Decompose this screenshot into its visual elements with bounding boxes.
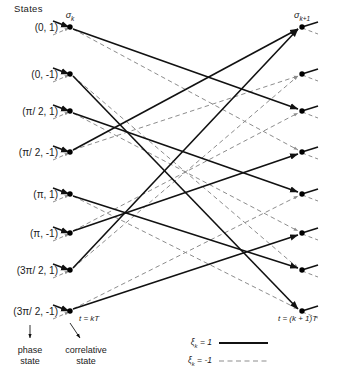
transition-edge-0-to-2 [73,29,298,109]
node-entry-stubs [53,21,318,319]
state-label-7: (3π/ 2, -1) [0,306,58,317]
transition-edge-3-to-1 [73,76,298,150]
annotation-phase-state-line2: state [18,356,43,367]
state-node-left-6 [67,267,72,272]
node-out-stub-dashed-1 [302,75,318,81]
state-label-1: (0, -1) [0,69,58,80]
state-node-left-5 [67,230,72,235]
node-out-stub-dashed-5 [302,234,318,240]
state-node-right-3 [299,149,304,154]
state-node-right-6 [299,267,304,272]
transition-edges-dashed [73,29,298,309]
time-label-right: t = (k + 1)T [278,314,317,323]
state-node-left-1 [67,71,72,76]
annotation-correlative-state: correlativestate [65,345,107,366]
node-out-stub-dashed-2 [302,112,318,118]
node-out-stub-dashed-3 [302,153,318,159]
annotation-phase-state: phasestate [18,345,43,366]
state-node-left-0 [67,24,72,29]
state-node-right-5 [299,230,304,235]
state-node-left-2 [67,108,72,113]
state-node-right-7 [299,308,304,313]
state-label-3: (π/ 2, -1) [0,147,58,158]
legend-sample-lines [219,343,268,361]
state-label-2: (π/ 2, 1) [0,106,58,117]
state-node-right-0 [299,24,304,29]
time-label-left: t = kT [79,314,99,323]
annotation-arrows [30,323,80,338]
legend-label-1: ξk = -1 [142,355,212,367]
transition-edge-7-to-5 [73,235,298,309]
annotation-phase-state-line1: phase [18,345,43,356]
state-label-0: (0, 1) [0,22,58,33]
annotation-correlative-state-line1: correlative [65,345,107,356]
column-header-sigma-k-plus-1: σk+1 [294,10,310,22]
state-label-6: (3π/ 2, 1) [0,265,58,276]
state-nodes [67,24,304,313]
state-node-left-4 [67,191,72,196]
annotation-arrow-correlative-state [70,323,80,338]
state-label-4: (π, 1) [0,189,58,200]
transition-edges-solid [73,29,298,309]
state-node-right-1 [299,71,304,76]
node-out-stub-dashed-0 [302,28,318,34]
legend-label-0: ξk = 1 [142,337,212,349]
state-node-right-2 [299,108,304,113]
state-label-5: (π, -1) [0,228,58,239]
node-out-stub-dashed-4 [302,195,318,201]
transition-edge-5-to-3 [73,154,298,231]
state-node-left-3 [67,149,72,154]
trellis-figure: States (0, 1)(0, -1)(π/ 2, 1)(π/ 2, -1)(… [0,0,341,376]
state-node-right-4 [299,191,304,196]
annotation-correlative-state-line2: state [65,356,107,367]
column-header-sigma-k: σk [66,10,75,22]
transition-edge-2-to-4 [73,113,298,192]
states-header: States [14,3,43,14]
node-out-stub-dashed-6 [302,271,318,277]
state-node-left-7 [67,308,72,313]
